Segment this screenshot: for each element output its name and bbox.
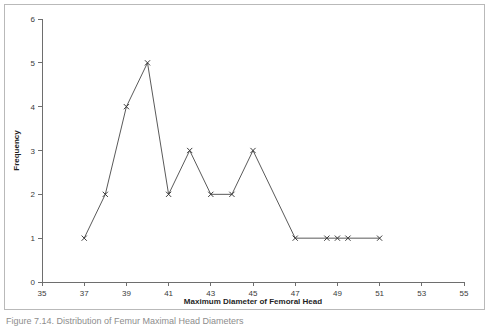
x-tick-label: 55 <box>460 289 469 298</box>
y-tick-label: 5 <box>31 59 36 68</box>
y-tick-label: 4 <box>31 103 36 112</box>
x-axis: 3537394143454749515355 <box>38 282 469 298</box>
x-tick-label: 49 <box>333 289 342 298</box>
x-tick-label: 35 <box>38 289 47 298</box>
data-point-marker <box>82 236 87 241</box>
x-tick-label: 41 <box>164 289 173 298</box>
figure-caption: Figure 7.14. Distribution of Femur Maxim… <box>6 316 476 326</box>
y-tick-label: 3 <box>31 147 36 156</box>
x-tick-label: 51 <box>375 289 384 298</box>
frequency-line-chart: 0123456 3537394143454749515355 Maximum D… <box>5 5 484 309</box>
data-markers <box>82 60 383 241</box>
series-polyline <box>84 63 379 238</box>
chart-frame: 0123456 3537394143454749515355 Maximum D… <box>4 4 485 310</box>
y-axis: 0123456 <box>31 15 42 287</box>
y-axis-title: Frequency <box>12 130 21 171</box>
y-tick-label: 2 <box>31 190 36 199</box>
y-tick-label: 0 <box>31 278 36 287</box>
data-series <box>84 63 379 238</box>
data-point-marker <box>250 148 255 153</box>
x-tick-label: 53 <box>417 289 426 298</box>
x-tick-label: 37 <box>80 289 89 298</box>
y-tick-label: 6 <box>31 15 36 24</box>
y-tick-label: 1 <box>31 234 36 243</box>
data-point-marker <box>187 148 192 153</box>
x-axis-title: Maximum Diameter of Femoral Head <box>184 297 322 306</box>
x-tick-label: 39 <box>122 289 131 298</box>
